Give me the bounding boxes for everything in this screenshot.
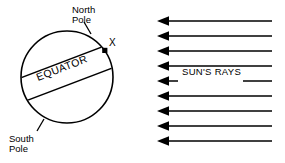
ray-arrow-5 [157, 76, 272, 86]
equator-label: EQUATOR [34, 52, 88, 82]
ray-arrow-7 [157, 106, 272, 116]
point-x-label: X [109, 37, 116, 48]
north-pole-label-line2: Pole [72, 14, 91, 25]
suns-rays-group [157, 16, 272, 146]
suns-rays-label: SUN'S RAYS [182, 66, 241, 77]
ray-arrow-2 [157, 31, 272, 41]
ray-arrowhead-8 [157, 121, 169, 131]
ray-arrow-3 [157, 46, 272, 56]
diagram-canvas: North Pole South Pole X EQUATOR [0, 0, 285, 163]
south-pole-leader-line [37, 119, 44, 131]
ray-arrowhead-3 [157, 46, 169, 56]
ray-arrowhead-1 [157, 16, 169, 26]
ray-arrowhead-4 [157, 61, 169, 71]
ray-arrow-6 [157, 91, 272, 101]
ray-arrowhead-2 [157, 31, 169, 41]
point-x-marker [102, 48, 107, 53]
ray-arrowhead-7 [157, 106, 169, 116]
earth-circle [21, 31, 113, 123]
ray-arrowhead-9 [157, 136, 169, 146]
ray-arrow-1 [157, 16, 272, 26]
ray-arrow-8 [157, 121, 272, 131]
earth-sun-rays-diagram: North Pole South Pole X EQUATOR [0, 0, 285, 163]
south-pole-label-line2: Pole [9, 143, 28, 154]
ray-arrowhead-6 [157, 91, 169, 101]
ray-arrow-9 [157, 136, 272, 146]
ray-arrowhead-5 [157, 76, 169, 86]
